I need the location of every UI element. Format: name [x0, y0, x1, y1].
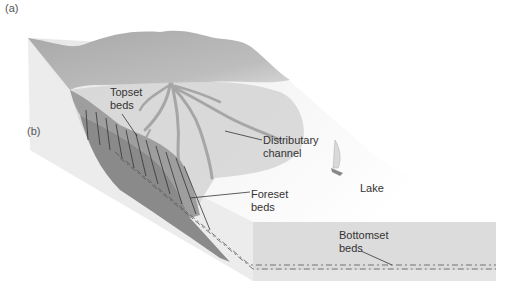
- bottomset-beds-label: Bottomset beds: [339, 229, 389, 255]
- panel-label-b: (b): [27, 125, 40, 137]
- topset-beds-label: Topset beds: [110, 86, 142, 112]
- front-face-bottom: [253, 270, 496, 281]
- distributary-channel-label: Distributary channel: [263, 134, 319, 160]
- delta-block-diagram: [0, 0, 519, 293]
- foreset-beds-label: Foreset beds: [251, 188, 288, 214]
- lake-label: Lake: [360, 182, 384, 195]
- panel-label-a: (a): [5, 2, 18, 14]
- mountain: [28, 31, 290, 90]
